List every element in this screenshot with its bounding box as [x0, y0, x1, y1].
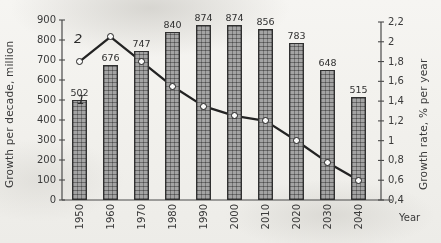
series-2-annotation: 2: [74, 32, 82, 45]
bar-value-label: 676: [94, 53, 128, 63]
bar-value-label: 515: [342, 85, 376, 95]
line-marker: [324, 159, 331, 166]
bar: [258, 29, 273, 200]
bar: [165, 32, 180, 200]
bar-fill: [103, 65, 118, 200]
bar-value-label: 747: [125, 39, 159, 49]
plot-canvas: [0, 0, 441, 243]
x-axis-label: 2040: [354, 204, 364, 229]
line-marker: [200, 103, 207, 110]
bar-fill: [351, 97, 366, 200]
bar-fill: [258, 29, 273, 200]
line-marker: [138, 58, 145, 65]
bar-fill: [196, 25, 211, 200]
bar-value-label: 874: [187, 13, 221, 23]
combo-chart: Growth per decade, million Growth rate, …: [0, 0, 441, 243]
bar-fill: [165, 32, 180, 200]
line-marker: [169, 83, 176, 90]
x-axis-label: 2030: [323, 204, 333, 229]
x-axis-label: 1970: [137, 204, 147, 229]
x-axis-label: 1960: [106, 204, 116, 229]
bar-value-label: 648: [311, 58, 345, 68]
bar: [196, 25, 211, 200]
bar-fill: [320, 70, 335, 200]
bar-value-label: 840: [156, 20, 190, 30]
x-axis-label: 1990: [199, 204, 209, 229]
line-marker: [355, 177, 362, 184]
bar-fill: [72, 100, 87, 200]
bar: [103, 65, 118, 200]
line-marker: [76, 58, 83, 65]
bar-value-label: 874: [218, 13, 252, 23]
x-axis-label: 2010: [261, 204, 271, 229]
bar: [320, 70, 335, 200]
bar: [134, 51, 149, 200]
x-axis-label: 2020: [292, 204, 302, 229]
bar: [289, 43, 304, 200]
x-axis-label: 1950: [75, 204, 85, 229]
bar: [72, 100, 87, 200]
x-axis-title: Year: [399, 212, 420, 223]
bar-value-label: 856: [249, 17, 283, 27]
bar-fill: [134, 51, 149, 200]
bar-fill: [289, 43, 304, 200]
bar-value-label: 783: [280, 31, 314, 41]
x-axis-label: 2000: [230, 204, 240, 229]
x-axis-label: 1980: [168, 204, 178, 229]
bar: [351, 97, 366, 200]
series-1-annotation: 1: [77, 93, 85, 106]
